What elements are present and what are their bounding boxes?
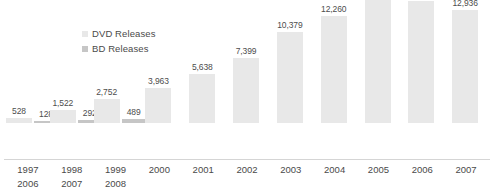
bar-dvd-releases: 2,752 bbox=[94, 99, 120, 123]
bar-group: 10,379 bbox=[269, 0, 313, 123]
x-tick-row2: 2007 bbox=[50, 177, 94, 191]
legend-item-bd-releases: BD Releases bbox=[82, 42, 156, 55]
bar-fill-dvd bbox=[6, 118, 32, 123]
x-axis-tick-label: 19992008 bbox=[94, 163, 138, 191]
bar-fill-dvd bbox=[321, 16, 347, 123]
bar-dvd-releases: 10,379 bbox=[277, 32, 303, 123]
bar-chart: DVD Releases BD Releases 5281281,5222922… bbox=[0, 0, 496, 196]
x-axis-tick-label: 2007 bbox=[444, 163, 488, 177]
bar-dvd-releases: 3,963 bbox=[145, 88, 171, 123]
bar-fill-dvd bbox=[233, 58, 259, 123]
bar-value-label: 10,379 bbox=[277, 20, 302, 30]
x-axis-tick-label: 2006 bbox=[400, 163, 444, 177]
x-tick-row2: 2006 bbox=[6, 177, 50, 191]
bar-dvd-releases: 14,036 bbox=[365, 0, 391, 123]
bar-dvd-releases: 13,885 bbox=[408, 1, 434, 123]
bar-fill-dvd bbox=[452, 10, 478, 123]
bar-group: 7,399 bbox=[225, 0, 269, 123]
bar-fill-dvd bbox=[408, 1, 434, 123]
bar-group: 12,260 bbox=[313, 0, 357, 123]
bar-fill-dvd bbox=[277, 32, 303, 123]
x-tick-row1: 2002 bbox=[236, 164, 257, 175]
x-axis-tick-label: 2000 bbox=[137, 163, 181, 177]
x-tick-row1: 1998 bbox=[61, 164, 82, 175]
x-axis-line bbox=[4, 159, 490, 160]
bar-value-label: 2,752 bbox=[96, 87, 117, 97]
bar-value-label: 3,963 bbox=[148, 76, 169, 86]
bar-value-label: 12,260 bbox=[321, 4, 346, 14]
x-axis-tick-label: 2003 bbox=[269, 163, 313, 177]
x-tick-row1: 2003 bbox=[280, 164, 301, 175]
bar-fill-dvd bbox=[189, 74, 215, 123]
x-tick-row1: 2005 bbox=[368, 164, 389, 175]
x-tick-row1: 2001 bbox=[193, 164, 214, 175]
x-tick-row1: 2000 bbox=[149, 164, 170, 175]
bar-group: 2,752489 bbox=[94, 0, 138, 123]
x-tick-row1: 2007 bbox=[456, 164, 477, 175]
x-axis-tick-label: 2001 bbox=[181, 163, 225, 177]
x-axis-tick-label: 2002 bbox=[225, 163, 269, 177]
legend-label-dvd-releases: DVD Releases bbox=[92, 28, 156, 39]
bar-value-label: 528 bbox=[12, 106, 26, 116]
x-tick-row1: 2006 bbox=[412, 164, 433, 175]
bar-fill-dvd bbox=[365, 0, 391, 123]
legend-swatch-bd-releases bbox=[82, 46, 88, 52]
x-axis-tick-label: 2004 bbox=[313, 163, 357, 177]
bar-group: 3,963 bbox=[137, 0, 181, 123]
legend-swatch-dvd-releases bbox=[82, 31, 88, 37]
x-tick-row1: 1997 bbox=[17, 164, 38, 175]
bar-dvd-releases: 1,522 bbox=[50, 110, 76, 123]
x-axis-tick-label: 19982007 bbox=[50, 163, 94, 191]
bar-group: 14,036 bbox=[357, 0, 401, 123]
bar-dvd-releases: 12,260 bbox=[321, 16, 347, 123]
x-tick-row2: 2008 bbox=[94, 177, 138, 191]
bar-group: 1,522292 bbox=[50, 0, 94, 123]
bar-dvd-releases: 7,399 bbox=[233, 58, 259, 123]
bar-value-label: 1,522 bbox=[52, 98, 73, 108]
bar-fill-dvd bbox=[50, 110, 76, 123]
bar-group: 13,885 bbox=[400, 0, 444, 123]
x-axis-tick-label: 2005 bbox=[357, 163, 401, 177]
bar-fill-dvd bbox=[94, 99, 120, 123]
bar-group: 528128 bbox=[6, 0, 50, 123]
x-axis-tick-label: 19972006 bbox=[6, 163, 50, 191]
chart-legend: DVD Releases BD Releases bbox=[82, 27, 156, 57]
legend-item-dvd-releases: DVD Releases bbox=[82, 27, 156, 40]
bar-fill-dvd bbox=[145, 88, 171, 123]
bar-value-label: 7,399 bbox=[236, 46, 257, 56]
x-tick-row1: 2004 bbox=[324, 164, 345, 175]
bar-dvd-releases: 5,638 bbox=[189, 74, 215, 123]
legend-label-bd-releases: BD Releases bbox=[92, 43, 149, 54]
bar-value-label: 5,638 bbox=[192, 62, 213, 72]
bar-dvd-releases: 12,936 bbox=[452, 10, 478, 123]
bar-group: 12,936 bbox=[444, 0, 488, 123]
bar-dvd-releases: 528 bbox=[6, 118, 32, 123]
bar-group: 5,638 bbox=[181, 0, 225, 123]
plot-area: 5281281,5222922,7524893,9635,6387,39910,… bbox=[0, 0, 496, 160]
bar-value-label: 12,936 bbox=[452, 0, 477, 8]
x-tick-row1: 1999 bbox=[105, 164, 126, 175]
